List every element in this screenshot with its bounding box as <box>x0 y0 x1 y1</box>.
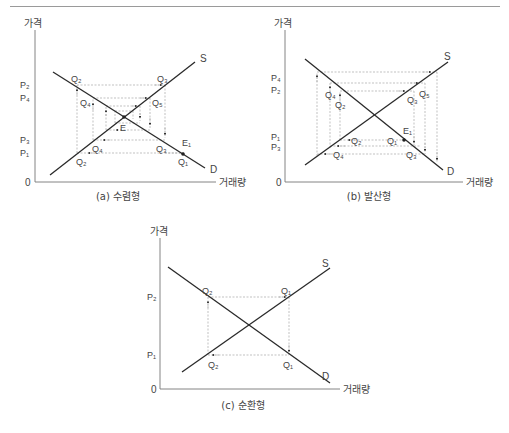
origin-label: 0 <box>151 384 157 395</box>
supply-label: S <box>322 258 329 269</box>
cobweb-diagrams: 가격 0 거래량 P₂ P₄ P₃ P₁ <box>0 0 509 433</box>
q3-right: Q₃ <box>407 95 418 105</box>
q3-top: Q₃ <box>157 74 168 84</box>
caption-c: (c) 순환형 <box>221 400 264 411</box>
x-axis-label: 거래량 <box>219 177 246 188</box>
e1-label: E₁ <box>403 126 412 136</box>
cobweb-path <box>77 85 184 153</box>
q2-left: Q₂ <box>335 100 346 110</box>
y-axis-label: 가격 <box>150 225 168 237</box>
supply-label: S <box>200 53 207 64</box>
demand-label: D <box>447 166 454 177</box>
price-p2: P₂ <box>147 292 157 302</box>
x-axis-label: 거래량 <box>466 177 493 188</box>
origin-label: 0 <box>25 177 31 188</box>
q4-bottom: Q₄ <box>92 144 103 154</box>
caption-a: (a) 수렴형 <box>96 190 140 202</box>
e1-label: E₁ <box>182 138 191 148</box>
q5-right: Q₅ <box>152 98 163 108</box>
price-p1: P₁ <box>271 132 280 142</box>
supply-curve <box>182 268 330 372</box>
figure-a-convergent: 가격 0 거래량 P₂ P₄ P₃ P₁ <box>20 17 246 202</box>
q1: Q₁ <box>387 136 397 146</box>
supply-curve <box>305 62 448 165</box>
q2-bottom: Q₂ <box>351 136 362 146</box>
y-axis-label: 가격 <box>274 17 292 29</box>
price-p2: P₂ <box>271 85 281 95</box>
price-p3: P₃ <box>271 142 281 152</box>
price-p1: P₁ <box>147 350 156 360</box>
price-p1: P₁ <box>20 148 29 158</box>
figure-b-divergent: 가격 0 거래량 P₄ P₂ P₁ P₃ <box>271 17 493 202</box>
start-point-e1 <box>402 138 406 142</box>
q2-bottom: Q₂ <box>76 157 87 167</box>
caption-b: (b) 발산형 <box>347 191 391 202</box>
q1: Q₁ <box>178 157 188 167</box>
price-p2: P₂ <box>20 80 30 90</box>
price-p4: P₄ <box>271 73 281 83</box>
q5-right: Q₅ <box>419 89 430 99</box>
start-point-e1 <box>181 152 185 156</box>
demand-label: D <box>322 371 329 382</box>
q1-top: Q₁ <box>281 286 291 296</box>
q2-top: Q₂ <box>71 74 82 84</box>
q1-bottom: Q₁ <box>283 360 293 370</box>
demand-label: D <box>210 164 217 175</box>
q2-bottom: Q₂ <box>208 360 219 370</box>
origin-label: 0 <box>276 177 282 188</box>
equilibrium-point <box>122 115 126 119</box>
x-axis-label: 거래량 <box>343 384 370 395</box>
price-p3: P₃ <box>20 135 30 145</box>
q4-bottom: Q₄ <box>333 150 344 160</box>
figure-c-cyclical: 가격 0 거래량 P₂ P₁ S D Q₂ Q₁ Q₂ Q₁ (c) 순환형 <box>147 225 370 411</box>
y-axis-label: 가격 <box>24 17 42 29</box>
supply-label: S <box>444 51 451 62</box>
price-p4: P₄ <box>20 93 30 103</box>
q3-right: Q₃ <box>156 144 167 154</box>
q4-left: Q₄ <box>80 98 91 108</box>
equilibrium-label: E <box>120 123 126 133</box>
q4-left: Q₄ <box>325 90 336 100</box>
q2-top: Q₂ <box>202 286 213 296</box>
q3-bottom: Q₃ <box>406 150 417 160</box>
